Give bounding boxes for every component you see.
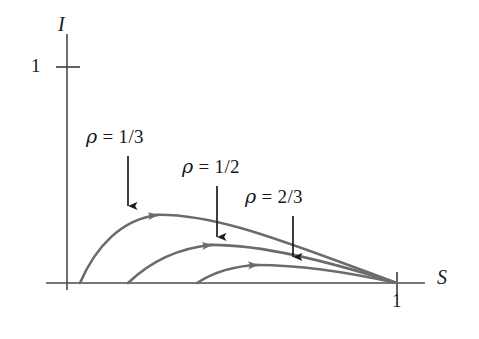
rho-symbol-3: ρ [245,185,256,207]
y-axis-tick-label-1: 1 [31,56,41,75]
curve-label-rho-2-3: ρ = 2/3 [245,187,303,206]
curve-rho-1-2-segment-a [128,245,212,283]
equals-sign-2: = [193,156,214,177]
rho-value-1: 1/3 [119,126,144,147]
rho-value-2: 1/2 [215,156,240,177]
equals-sign-1: = [97,126,118,147]
curve-label-rho-1-3: ρ = 1/3 [86,127,144,146]
rho-symbol-2: ρ [182,155,193,177]
curve-rho-1-3-segment-a [80,215,158,283]
curve-rho-2-3-segment-a [197,265,258,283]
rho-value-3: 2/3 [278,186,303,207]
sir-phase-plane-figure: I S 1 1 ρ = 1/3 ρ = 1/2 ρ = 2/3 [0,0,479,339]
rho-symbol-1: ρ [86,125,97,147]
y-axis-label: I [58,14,65,34]
x-axis-label: S [437,267,447,287]
equals-sign-3: = [256,186,277,207]
curve-label-rho-1-2: ρ = 1/2 [182,157,240,176]
axis-ticks [56,67,397,295]
trajectory-curves [80,215,397,283]
x-axis-tick-label-1: 1 [392,291,402,310]
